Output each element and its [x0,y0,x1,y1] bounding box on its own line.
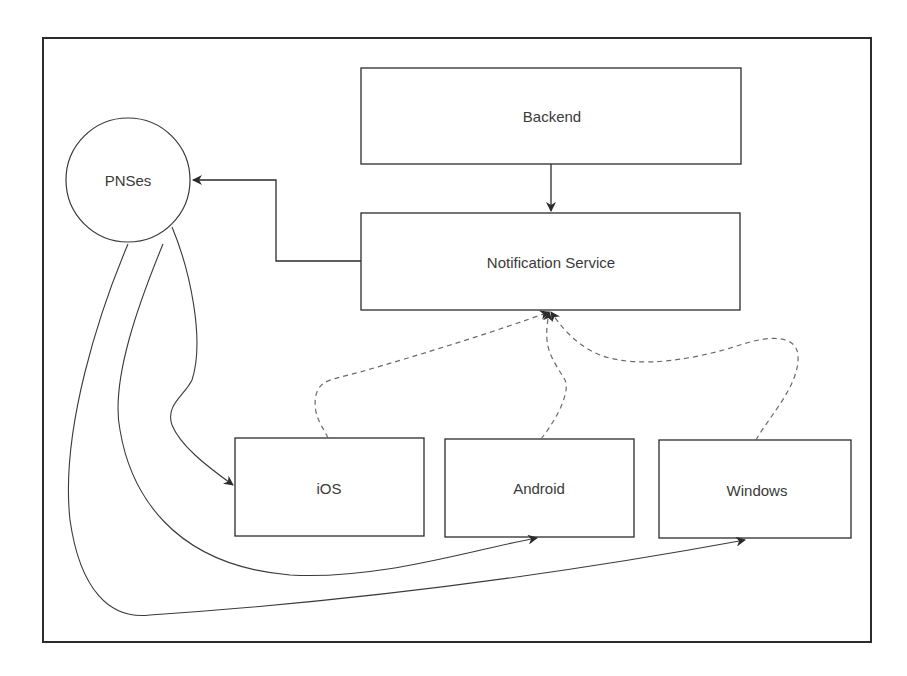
node-ios[interactable]: iOS [235,438,424,536]
node-pnses-label: PNSes [105,172,152,189]
node-notification-service-label: Notification Service [487,254,615,271]
edge-pnses-to-ios [171,227,233,485]
edge-windows-to-notification-service [551,312,798,440]
node-windows-label: Windows [727,482,788,499]
node-windows[interactable]: Windows [659,440,851,538]
edge-notification-service-to-pnses [193,180,361,261]
edge-android-to-notification-service [541,312,566,439]
architecture-diagram: Backend Notification Service PNSes iOS A… [0,0,907,676]
node-backend[interactable]: Backend [361,68,741,164]
node-pnses[interactable]: PNSes [66,118,190,242]
node-backend-label: Backend [523,108,581,125]
node-notification-service[interactable]: Notification Service [361,213,740,310]
edge-ios-to-notification-service [315,312,549,438]
node-ios-label: iOS [316,480,341,497]
node-android[interactable]: Android [445,439,634,537]
node-android-label: Android [513,480,565,497]
